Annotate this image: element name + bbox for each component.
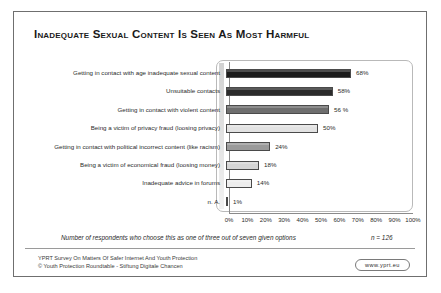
bar-category-label: Being a victim of privacy fraud (loosing… xyxy=(26,125,226,131)
bar-value-label: 56 % xyxy=(334,107,348,113)
bar-category-label: Unsuitable contacts xyxy=(26,88,226,94)
source-attribution: YPRT Survey On Matters Of Safer Internet… xyxy=(38,254,197,270)
bar-row: Inadequate advice in forums14% xyxy=(26,174,416,192)
bar xyxy=(226,161,259,170)
source-line-2: © Youth Protection Roundtable - Stiftung… xyxy=(38,262,197,270)
bar-value-label: 24% xyxy=(275,144,287,150)
x-tick-label: 80% xyxy=(370,217,382,223)
bar-track: 1% xyxy=(226,193,416,211)
bar-chart: Getting in contact with age inadequate s… xyxy=(26,60,416,232)
bar-row: Getting in contact with violent content5… xyxy=(26,101,416,119)
bar-track: 18% xyxy=(226,156,416,174)
bar-row: Unsuitable contacts58% xyxy=(26,82,416,100)
x-tick-label: 70% xyxy=(352,217,364,223)
bar-value-label: 58% xyxy=(338,88,350,94)
bar-row: Being a victim of economical fraud (loos… xyxy=(26,156,416,174)
bar-track: 58% xyxy=(226,82,416,100)
bar-category-label: n. A. xyxy=(26,199,226,205)
x-tick-label: 90% xyxy=(389,217,401,223)
bar-category-label: Being a victim of economical fraud (loos… xyxy=(26,162,226,168)
bar-value-label: 1% xyxy=(233,199,242,205)
bar-category-label: Inadequate advice in forums xyxy=(26,180,226,186)
bar-track: 24% xyxy=(226,138,416,156)
bar-category-label: Getting in contact with age inadequate s… xyxy=(26,70,226,76)
bar-row: Getting in contact with political incorr… xyxy=(26,138,416,156)
bar-track: 56 % xyxy=(226,101,416,119)
bar-track: 68% xyxy=(226,64,416,82)
page-title: Inadequate Sexual Content Is Seen As Mos… xyxy=(34,28,309,40)
bar xyxy=(226,179,252,188)
bar-row: n. A.1% xyxy=(26,193,416,211)
bar-value-label: 14% xyxy=(257,180,269,186)
x-axis-ticks: 0%10%20%30%40%50%60%70%80%90%100% xyxy=(26,217,416,227)
bar xyxy=(226,142,270,151)
x-tick-label: 30% xyxy=(278,217,290,223)
x-tick-label: 10% xyxy=(241,217,253,223)
bar-value-label: 68% xyxy=(356,70,368,76)
bar xyxy=(226,87,333,96)
x-tick-label: 40% xyxy=(297,217,309,223)
source-line-1: YPRT Survey On Matters Of Safer Internet… xyxy=(38,254,197,262)
category-axis-line xyxy=(229,213,413,214)
bar-track: 50% xyxy=(226,119,416,137)
website-logo-badge: www.yprt.eu xyxy=(355,259,410,271)
footer-divider xyxy=(25,248,415,249)
bar xyxy=(226,197,228,206)
x-tick-label: 20% xyxy=(260,217,272,223)
bar xyxy=(226,69,351,78)
bar-row: Getting in contact with age inadequate s… xyxy=(26,64,416,82)
x-tick-label: 60% xyxy=(333,217,345,223)
sample-size-label: n = 126 xyxy=(371,234,393,241)
bar-category-label: Getting in contact with violent content xyxy=(26,107,226,113)
bar xyxy=(226,124,318,133)
bar xyxy=(226,105,329,114)
footnote-text: Number of respondents who choose this as… xyxy=(61,234,296,241)
slide-frame: Inadequate Sexual Content Is Seen As Mos… xyxy=(13,11,427,277)
bar-rows: Getting in contact with age inadequate s… xyxy=(26,64,416,211)
bar-value-label: 18% xyxy=(264,162,276,168)
x-tick-label: 0% xyxy=(225,217,234,223)
bar-track: 14% xyxy=(226,174,416,192)
x-tick-label: 50% xyxy=(315,217,327,223)
x-tick-label: 100% xyxy=(405,217,420,223)
bar-value-label: 50% xyxy=(323,125,335,131)
bar-row: Being a victim of privacy fraud (loosing… xyxy=(26,119,416,137)
bar-category-label: Getting in contact with political incorr… xyxy=(26,144,226,150)
